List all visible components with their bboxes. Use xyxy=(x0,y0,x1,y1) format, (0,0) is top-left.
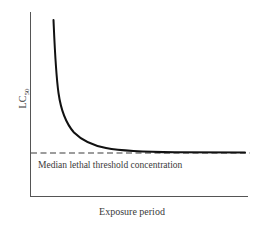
chart-figure: LC50 Median lethal threshold concentrati… xyxy=(0,0,264,231)
y-axis-label: LC50 xyxy=(18,81,31,117)
x-axis-label: Exposure period xyxy=(0,207,264,217)
y-axis-label-subscript: 50 xyxy=(23,89,31,96)
lc50-decay-curve xyxy=(54,20,246,153)
median-lethal-threshold-label: Median lethal threshold concentration xyxy=(38,161,182,171)
y-axis-label-main: LC xyxy=(17,96,28,109)
plot-area xyxy=(0,0,264,231)
